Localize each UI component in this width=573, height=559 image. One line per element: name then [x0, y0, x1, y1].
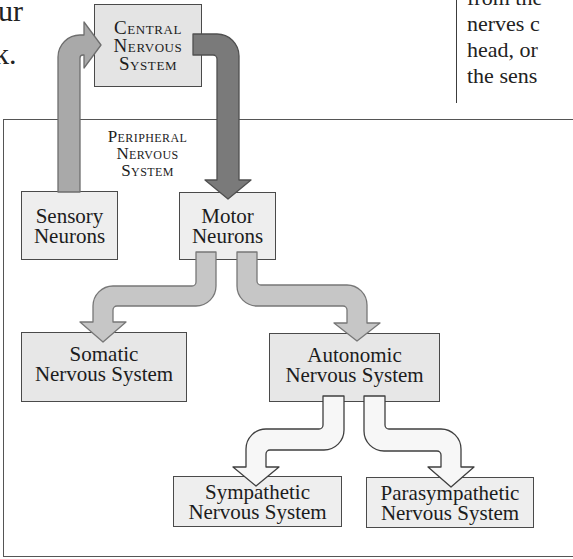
label-line: Motor	[201, 206, 254, 226]
label-line: Nervous System	[381, 503, 519, 523]
label-line: Nervous	[114, 37, 183, 55]
label-line: Somatic	[70, 344, 139, 364]
text-line: nerves c	[467, 11, 542, 37]
node-somatic-nervous-system: Somatic Nervous System	[21, 332, 187, 402]
label-line: System	[60, 162, 235, 179]
label-line: Sensory	[36, 206, 104, 226]
left-column-text-fragment: k.	[0, 39, 17, 69]
node-motor-neurons: Motor Neurons	[179, 192, 276, 260]
label-line: Neurons	[192, 226, 263, 246]
column-divider-rule	[456, 0, 457, 103]
text-line: the sens	[467, 63, 542, 89]
label-line: Parasympathetic	[381, 483, 520, 503]
label-line: Sympathetic	[205, 482, 310, 502]
node-autonomic-nervous-system: Autonomic Nervous System	[269, 333, 440, 402]
label-line: Nervous System	[35, 364, 173, 384]
node-sensory-neurons: Sensory Neurons	[21, 191, 118, 260]
label-line: Nervous System	[285, 365, 423, 385]
peripheral-nervous-system-label: Peripheral Nervous System	[60, 128, 235, 179]
label-line: Nervous System	[188, 502, 326, 522]
node-central-nervous-system: Central Nervous System	[94, 4, 202, 87]
label-line: System	[119, 55, 177, 73]
label-line: Neurons	[34, 226, 105, 246]
label-line: Nervous	[60, 145, 235, 162]
node-sympathetic-nervous-system: Sympathetic Nervous System	[173, 476, 342, 527]
label-line: Autonomic	[307, 345, 402, 365]
left-column-text-fragment: ur	[0, 0, 23, 26]
label-line: Peripheral	[60, 128, 235, 145]
right-column-text-fragment: from the nerves c head, or the sens	[467, 0, 542, 89]
text-line: from the	[467, 0, 542, 11]
text-line: head, or	[467, 37, 542, 63]
node-parasympathetic-nervous-system: Parasympathetic Nervous System	[366, 477, 534, 528]
label-line: Central	[114, 19, 182, 37]
